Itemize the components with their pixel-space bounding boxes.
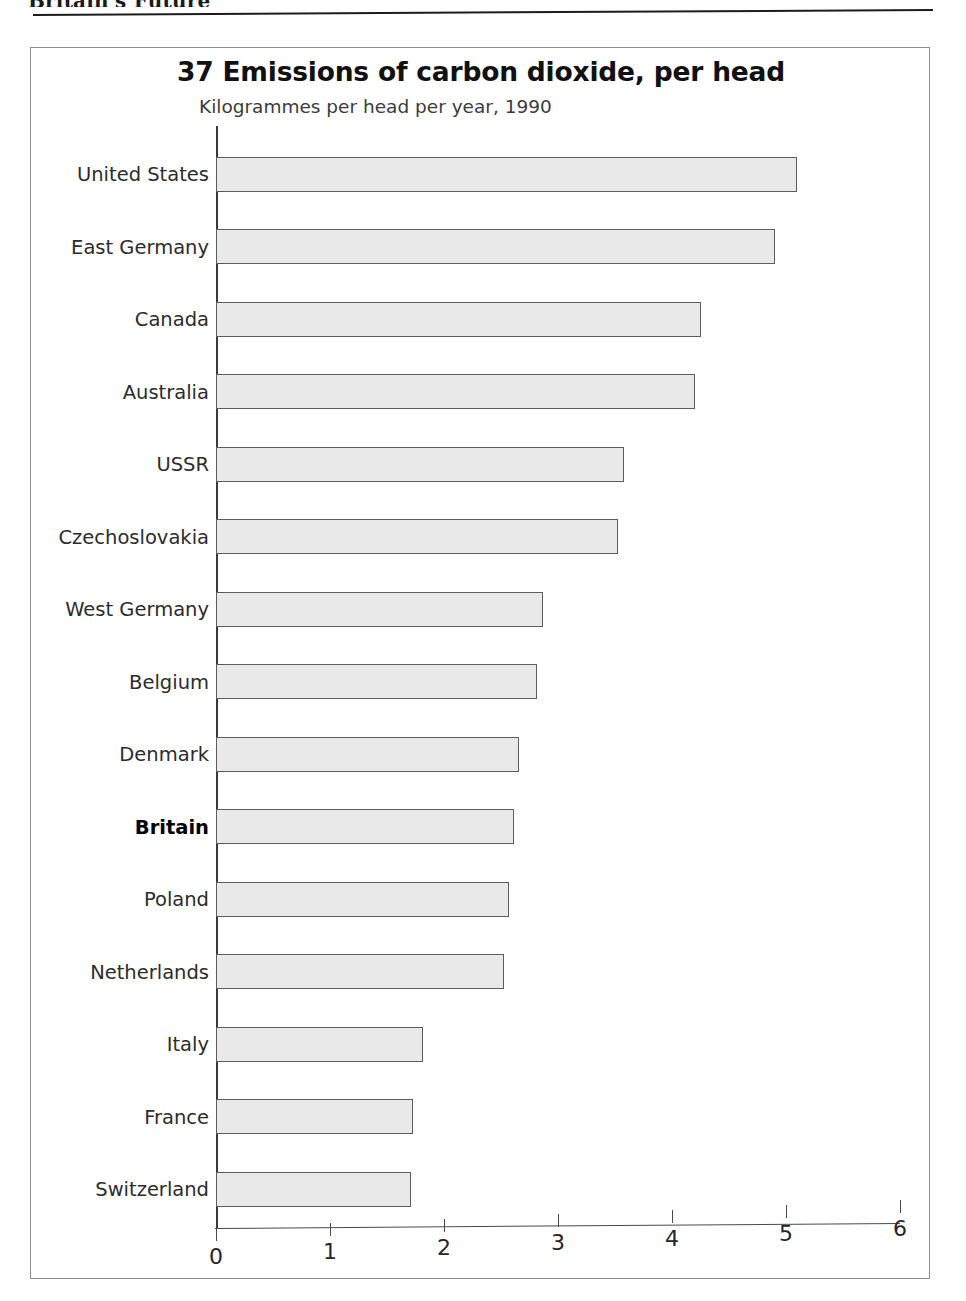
bar-category-label: Denmark	[119, 743, 209, 766]
bar-category-label: Britain	[135, 815, 209, 838]
bar-row: Italy	[31, 1008, 931, 1080]
x-axis-tick	[558, 1214, 559, 1227]
x-axis-tick-label: 6	[893, 1216, 907, 1241]
bar	[216, 1172, 411, 1207]
bar-category-label: Czechoslovakia	[58, 525, 209, 548]
bar	[216, 737, 519, 772]
bar-row: USSR	[31, 428, 931, 500]
x-axis-tick-label: 5	[779, 1221, 793, 1246]
bar	[216, 302, 701, 337]
bar-row: Netherlands	[31, 936, 931, 1008]
bar-category-label: Australia	[123, 380, 209, 403]
bar-category-label: West Germany	[65, 598, 209, 621]
x-axis-tick-label: 3	[551, 1230, 565, 1255]
bar-row: West Germany	[31, 573, 931, 645]
x-axis-tick	[216, 1228, 217, 1241]
x-axis-tick	[786, 1205, 787, 1218]
bar-category-label: Belgium	[129, 670, 209, 693]
bar-category-label: Italy	[167, 1033, 209, 1056]
bar-row: Australia	[31, 356, 931, 428]
x-axis-tick-label: 0	[209, 1244, 223, 1269]
bar-row: Denmark	[31, 718, 931, 790]
x-axis-tick-label: 4	[665, 1226, 679, 1251]
bar-category-label: East Germany	[71, 235, 209, 258]
bar-row: Switzerland	[31, 1153, 931, 1225]
bar-row: United States	[31, 138, 931, 210]
x-axis-tick	[330, 1223, 331, 1236]
bar	[216, 592, 543, 627]
bar-row: East Germany	[31, 211, 931, 283]
bar	[216, 1099, 413, 1134]
bar-row: Belgium	[31, 646, 931, 718]
bar-category-label: United States	[77, 163, 209, 186]
bar	[216, 447, 624, 482]
running-head: Britain's Future	[28, 0, 588, 7]
bar-row: Britain	[31, 791, 931, 863]
bar	[216, 809, 514, 844]
bar	[216, 229, 775, 264]
bar-category-label: Canada	[135, 308, 209, 331]
bar-row: Canada	[31, 283, 931, 355]
bar	[216, 664, 537, 699]
x-axis-tick	[672, 1210, 673, 1223]
bar-category-label: USSR	[156, 453, 209, 476]
bar	[216, 1027, 423, 1062]
x-axis-tick	[900, 1200, 901, 1213]
bar	[216, 882, 509, 917]
x-axis-tick-label: 1	[323, 1239, 337, 1264]
bar	[216, 954, 504, 989]
bar	[216, 519, 618, 554]
plot-area: United StatesEast GermanyCanadaAustralia…	[31, 48, 931, 1280]
x-axis-tick-label: 2	[437, 1235, 451, 1260]
figure-frame: 37 Emissions of carbon dioxide, per head…	[30, 47, 930, 1279]
header-rule	[33, 9, 933, 16]
bar-row: Czechoslovakia	[31, 501, 931, 573]
bar-category-label: France	[144, 1105, 209, 1128]
bar-category-label: Switzerland	[95, 1178, 209, 1201]
bar-row: France	[31, 1081, 931, 1153]
bar	[216, 157, 797, 192]
bar-category-label: Poland	[144, 888, 209, 911]
bar-category-label: Netherlands	[90, 960, 209, 983]
x-axis-tick	[444, 1219, 445, 1232]
bar	[216, 374, 695, 409]
bar-row: Poland	[31, 863, 931, 935]
